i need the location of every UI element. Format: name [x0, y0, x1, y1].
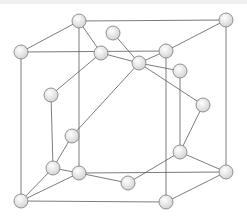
bond-R-P: [166, 172, 226, 202]
atom-P: [219, 165, 233, 179]
atom-A: [72, 14, 86, 28]
atom-M: [72, 166, 86, 180]
atom-B: [219, 13, 233, 27]
bond-I-O: [180, 105, 203, 152]
bond-B-D: [166, 20, 226, 51]
bond-G-K: [72, 63, 139, 136]
atom-D: [159, 44, 173, 58]
atom-I: [196, 98, 210, 112]
atom-H: [173, 64, 187, 78]
bond-A-B: [79, 20, 226, 21]
bond-O-P: [180, 152, 226, 172]
atoms-layer: [14, 13, 233, 209]
atom-C: [14, 45, 28, 59]
bond-M-Q: [21, 173, 79, 201]
atom-J: [44, 88, 58, 102]
atom-Q: [14, 194, 28, 208]
atom-K: [65, 129, 79, 143]
atom-R: [159, 195, 173, 209]
atom-O: [173, 145, 187, 159]
bond-C-D: [21, 51, 166, 52]
bond-A-C: [21, 21, 79, 52]
bond-J-L: [51, 95, 53, 168]
atom-N: [121, 176, 135, 190]
bond-Q-R: [21, 201, 166, 202]
atom-E: [106, 26, 120, 40]
bond-M-N: [79, 173, 128, 183]
bond-M-P: [79, 172, 226, 173]
crystal-lattice-diagram: [0, 0, 247, 219]
atom-F: [94, 46, 108, 60]
atom-L: [46, 161, 60, 175]
atom-G: [132, 56, 146, 70]
bond-F-J: [51, 53, 101, 95]
bond-O-N: [128, 152, 180, 183]
